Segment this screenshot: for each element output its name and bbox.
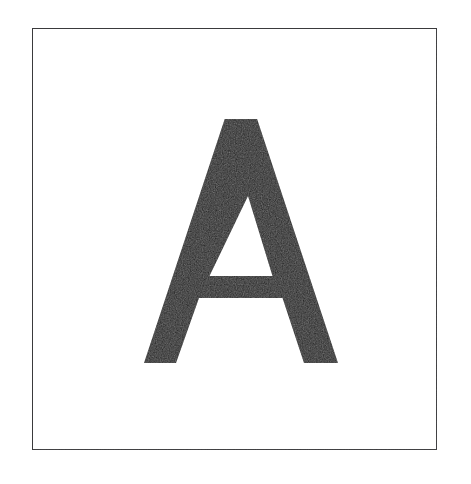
letter-card: Capital letter A Bordered card containin… xyxy=(32,28,437,450)
page-canvas: Capital letter A Bordered card containin… xyxy=(0,0,471,484)
glyph-stage xyxy=(33,29,438,451)
letter-a-glyph xyxy=(33,29,438,451)
